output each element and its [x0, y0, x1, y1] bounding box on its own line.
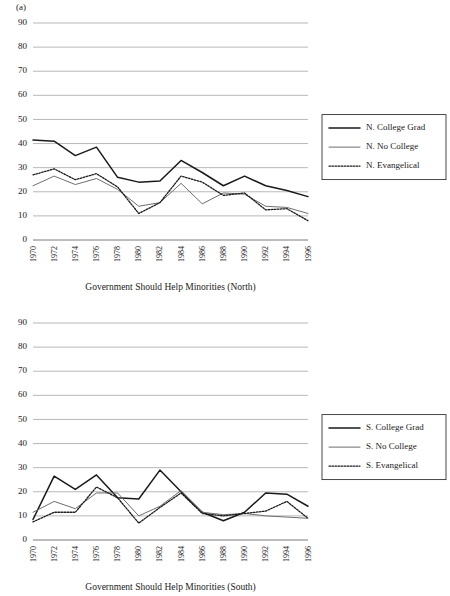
xtick-label-1986: 1986	[198, 546, 207, 562]
legend-label-n-no-college: N. No College	[366, 141, 418, 151]
ytick-label-70: 70	[18, 365, 28, 375]
series-group	[33, 470, 308, 523]
xtick-label-1980: 1980	[134, 246, 143, 262]
xtick-label-1972: 1972	[50, 246, 59, 262]
series-group	[33, 140, 308, 221]
xtick-label-1990: 1990	[240, 246, 249, 262]
ytick-label-60: 60	[18, 89, 28, 99]
figure-page: (a) 010203040506070809019701972197419761…	[0, 0, 450, 596]
series-line-n-no-college	[33, 176, 308, 213]
xtick-label-1988: 1988	[219, 246, 228, 262]
legend-north: N. College GradN. No CollegeN. Evangelic…	[322, 115, 446, 180]
x-axis-title: Government Should Help Minorities (South…	[85, 582, 255, 593]
series-line-s-no-college	[33, 491, 308, 519]
ytick-label-80: 80	[18, 341, 28, 351]
y-gridlines: 0102030405060708090	[18, 17, 308, 244]
ytick-label-30: 30	[18, 162, 28, 172]
series-line-n-college-grad	[33, 140, 308, 197]
xtick-label-1976: 1976	[92, 546, 101, 562]
xtick-label-1974: 1974	[71, 246, 80, 262]
chart-south: 0102030405060708090197019721974197619781…	[0, 308, 450, 596]
ytick-label-20: 20	[18, 486, 28, 496]
ytick-label-30: 30	[18, 462, 28, 472]
chart-svg-south: 0102030405060708090197019721974197619781…	[0, 308, 450, 596]
ytick-label-50: 50	[18, 414, 28, 424]
series-line-s-college-grad	[33, 470, 308, 521]
xtick-label-1976: 1976	[92, 246, 101, 262]
ytick-label-90: 90	[18, 17, 28, 27]
legend-label-n-evangelical: N. Evangelical	[366, 160, 420, 170]
ytick-label-10: 10	[18, 210, 28, 220]
chart-north: 0102030405060708090197019721974197619781…	[0, 8, 450, 298]
xtick-label-1982: 1982	[155, 546, 164, 562]
ytick-label-40: 40	[18, 138, 28, 148]
xtick-label-1984: 1984	[177, 546, 186, 562]
xtick-label-1996: 1996	[304, 246, 313, 262]
xtick-label-1974: 1974	[71, 546, 80, 562]
ytick-label-50: 50	[18, 114, 28, 124]
x-tick-labels: 1970197219741976197819801982198419861988…	[29, 246, 313, 262]
xtick-label-1994: 1994	[282, 246, 291, 262]
series-line-n-evangelical	[33, 169, 308, 221]
ytick-label-0: 0	[23, 234, 28, 244]
xtick-label-1990: 1990	[240, 546, 249, 562]
xtick-label-1978: 1978	[113, 246, 122, 262]
ytick-label-0: 0	[23, 534, 28, 544]
ytick-label-90: 90	[18, 317, 28, 327]
chart-svg-north: 0102030405060708090197019721974197619781…	[0, 8, 450, 298]
xtick-label-1988: 1988	[219, 546, 228, 562]
xtick-label-1978: 1978	[113, 546, 122, 562]
x-tick-labels: 1970197219741976197819801982198419861988…	[29, 546, 313, 562]
legend-label-s-no-college: S. No College	[366, 441, 417, 451]
ytick-label-60: 60	[18, 389, 28, 399]
ytick-label-70: 70	[18, 65, 28, 75]
legend-label-n-college-grad: N. College Grad	[366, 122, 426, 132]
xtick-label-1980: 1980	[134, 546, 143, 562]
xtick-label-1992: 1992	[261, 246, 270, 262]
xtick-label-1972: 1972	[50, 546, 59, 562]
xtick-label-1996: 1996	[304, 546, 313, 562]
legend-label-s-college-grad: S. College Grad	[366, 422, 424, 432]
xtick-label-1970: 1970	[29, 546, 38, 562]
ytick-label-80: 80	[18, 41, 28, 51]
xtick-label-1982: 1982	[155, 246, 164, 262]
xtick-label-1986: 1986	[198, 246, 207, 262]
ytick-label-20: 20	[18, 186, 28, 196]
legend-south: S. College GradS. No CollegeS. Evangelic…	[322, 415, 446, 480]
xtick-label-1992: 1992	[261, 546, 270, 562]
legend-label-s-evangelical: S. Evangelical	[366, 460, 418, 470]
ytick-label-10: 10	[18, 510, 28, 520]
y-gridlines: 0102030405060708090	[18, 317, 308, 544]
xtick-label-1984: 1984	[177, 246, 186, 262]
xtick-label-1970: 1970	[29, 246, 38, 262]
xtick-label-1994: 1994	[282, 546, 291, 562]
x-axis-title: Government Should Help Minorities (North…	[85, 282, 255, 293]
ytick-label-40: 40	[18, 438, 28, 448]
